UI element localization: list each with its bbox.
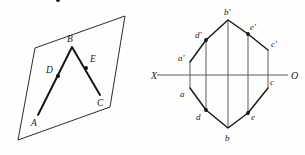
pictorial-view-group: A D B E C xyxy=(18,0,125,140)
label-c: c xyxy=(270,77,274,87)
label-b: b xyxy=(225,133,230,143)
label-D: D xyxy=(45,65,53,75)
label-a-prime: a' xyxy=(178,53,186,63)
figure-root: A D B E C X O xyxy=(0,0,305,155)
point-marker-D xyxy=(56,0,60,2)
engineering-drawing-canvas: A D B E C X O xyxy=(0,0,305,155)
label-E: E xyxy=(89,54,96,64)
label-a: a xyxy=(180,89,185,99)
label-A: A xyxy=(30,118,37,128)
label-b-prime: b' xyxy=(224,7,232,17)
vertex-dot-D xyxy=(56,74,60,78)
label-e: e xyxy=(251,112,255,122)
vertex-dot-d-prime xyxy=(204,38,208,42)
top-view-polyline xyxy=(190,88,268,128)
label-B: B xyxy=(67,34,73,44)
vertex-dot-E xyxy=(84,66,88,70)
axis-label-X: X xyxy=(150,70,158,81)
vertex-dot-d xyxy=(204,108,208,112)
axis-label-O: O xyxy=(291,70,298,81)
label-e-prime: e' xyxy=(250,22,257,32)
label-d-prime: d' xyxy=(195,30,203,40)
label-d: d xyxy=(196,112,201,122)
front-view-polyline xyxy=(190,20,268,62)
label-C: C xyxy=(97,98,104,108)
vertex-dot-e xyxy=(246,111,250,115)
label-c-prime: c' xyxy=(271,39,278,49)
vertex-dot-e-prime xyxy=(246,32,250,36)
orthographic-view-group: X O a' d' b' e' c' a d b e c xyxy=(150,7,298,143)
